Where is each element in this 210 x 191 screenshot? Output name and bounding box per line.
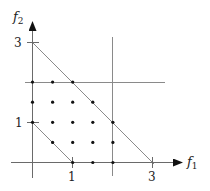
lattice-point	[91, 141, 94, 144]
constraint-lines	[25, 37, 165, 176]
f2-axis-label: f2	[12, 9, 24, 26]
lattice-point	[111, 121, 114, 124]
lattice-point	[91, 101, 94, 104]
f1-axis-label: f1	[186, 154, 198, 171]
lattice-point	[91, 161, 94, 164]
f2-tick-label-1: 1	[15, 116, 23, 130]
lattice-point	[51, 101, 54, 104]
lattice-point	[31, 121, 34, 124]
lattice-point	[31, 101, 34, 104]
lattice-point	[71, 161, 74, 164]
lattice-point	[71, 121, 74, 124]
lattice-point	[51, 141, 54, 144]
f2-tick-label-3: 3	[14, 36, 22, 50]
lattice-point	[31, 81, 34, 84]
lattice-point	[51, 121, 54, 124]
lattice-point	[51, 81, 54, 84]
lattice-points	[31, 81, 115, 165]
f1-tick-label-3: 3	[148, 170, 156, 184]
lattice-point	[71, 141, 74, 144]
diagram-canvas: f2 f1 3 1 1 3	[0, 0, 210, 191]
lattice-point	[91, 121, 94, 124]
lattice-point	[71, 101, 74, 104]
lattice-point	[111, 161, 114, 164]
axes	[11, 22, 182, 178]
f1-tick-label-1: 1	[68, 170, 76, 184]
lattice-point	[71, 81, 74, 84]
lattice-point	[111, 141, 114, 144]
